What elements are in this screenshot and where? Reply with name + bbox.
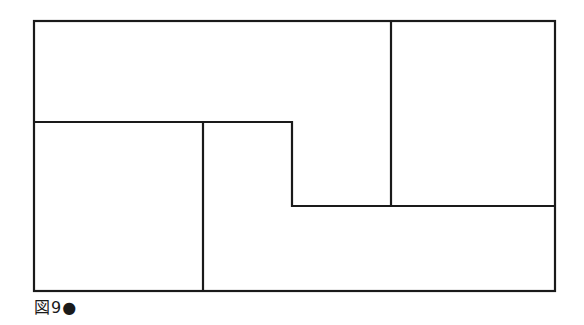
top-mid-horizontal-line — [34, 122, 555, 206]
outer-rectangle — [34, 21, 555, 291]
partition-diagram — [0, 0, 584, 325]
figure-caption: 図9● — [34, 298, 77, 318]
